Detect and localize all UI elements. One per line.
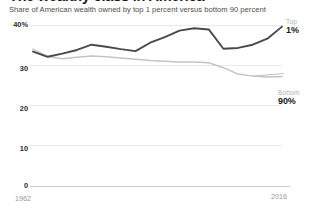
annotation-top-value: 1%: [286, 26, 299, 35]
plot-area: 40% 30 20 10 0 1962 2016 Top 1% Bottom 9…: [0, 0, 309, 209]
chart-figure: The wealthy class in America Share of Am…: [0, 0, 309, 209]
leader-line-bottom: [253, 74, 284, 77]
line-bottom-90: [33, 49, 282, 77]
series-lines: [0, 0, 309, 209]
line-top-1: [33, 27, 282, 57]
annotation-bottom-value: 90%: [278, 97, 300, 106]
annotation-top-1-percent: Top 1%: [286, 17, 299, 35]
annotation-bottom-90-percent: Bottom 90%: [278, 88, 300, 106]
